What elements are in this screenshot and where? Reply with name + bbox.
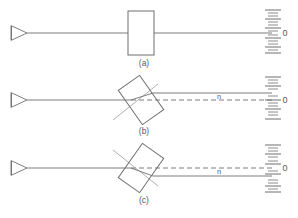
scale-zero-label-b: 0 — [282, 95, 287, 105]
panel-caption-a: (a) — [139, 58, 150, 68]
panel-caption-c: (c) — [139, 195, 149, 205]
optics-figure: 0 (a) n — [0, 0, 298, 218]
beam-source-triangle-icon — [11, 93, 27, 108]
scale-zero-label-a: 0 — [282, 28, 287, 38]
ruler-scale-icon-c — [265, 145, 281, 192]
beam-source-triangle-icon — [11, 161, 27, 176]
ruler-scale-icon-b — [265, 77, 281, 119]
beam-source-triangle-icon — [11, 26, 27, 41]
panel-b-internal-ray — [131, 93, 153, 100]
panel-caption-b: (b) — [139, 126, 150, 136]
glass-plate-icon-a — [128, 11, 154, 55]
panel-c: n 0 (c) — [11, 143, 288, 205]
diagram-canvas: 0 (a) n — [0, 0, 298, 218]
scale-zero-label-c: 0 — [282, 163, 287, 173]
panel-c-internal-ray — [131, 168, 153, 176]
ruler-scale-icon-a — [265, 10, 281, 53]
panel-c-ray-label: n — [217, 167, 221, 176]
panel-a: 0 (a) — [11, 10, 288, 68]
panel-b-ray-label: n — [217, 92, 221, 101]
panel-b: n 0 (b) — [11, 75, 288, 136]
